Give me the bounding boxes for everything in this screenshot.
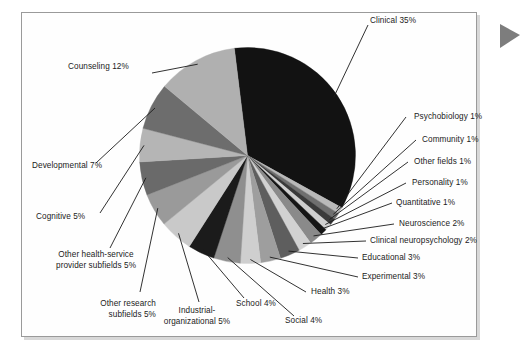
slice-label-other-research-subfields: Other research subfields 5% — [50, 299, 156, 320]
pie-slices — [140, 48, 356, 264]
slice-label-other-fields: Other fields 1% — [414, 157, 471, 168]
leader-line — [250, 260, 306, 293]
slice-label-counseling: Counseling 12% — [68, 62, 129, 73]
slice-label-experimental: Experimental 3% — [362, 272, 425, 283]
slice-label-cognitive: Cognitive 5% — [36, 212, 85, 223]
chart-page: Clinical 35% Psychobiology 1% Community … — [0, 0, 529, 354]
slice-label-industrial-organizational: Industrial- organizational 5% — [142, 306, 252, 327]
leader-line — [100, 145, 144, 213]
slice-label-community: Community 1% — [422, 135, 479, 146]
slice-label-health: Health 3% — [311, 287, 350, 298]
slice-label-clinical-neuropsychology: Clinical neuropsychology 2% — [370, 236, 477, 247]
slice-label-educational: Educational 3% — [362, 253, 420, 264]
right-triangle-marker-icon — [500, 22, 524, 50]
slice-label-developmental: Developmental 7% — [32, 161, 102, 172]
slice-label-other-health-service-provider-subfields: Other health-service provider subfields … — [30, 250, 162, 271]
slice-label-social: Social 4% — [285, 316, 322, 327]
leader-line — [289, 251, 359, 258]
slice-label-personality: Personality 1% — [412, 178, 468, 189]
slice-label-quantitative: Quantitative 1% — [396, 198, 455, 209]
leader-line — [110, 178, 146, 248]
slice-label-clinical: Clinical 35% — [370, 16, 416, 27]
leader-line — [270, 257, 358, 277]
slice-label-psychobiology: Psychobiology 1% — [414, 112, 482, 123]
leader-line — [334, 25, 368, 97]
slice-label-neuroscience: Neuroscience 2% — [399, 219, 464, 230]
